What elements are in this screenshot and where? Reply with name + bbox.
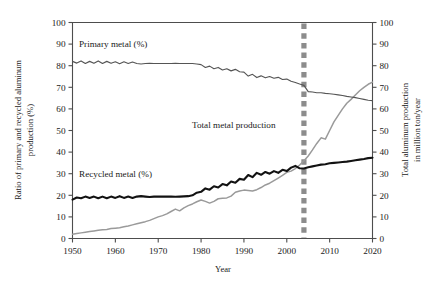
right-tick-label: 0 xyxy=(380,234,385,244)
right-tick-label: 70 xyxy=(380,83,390,93)
left-tick-label: 70 xyxy=(56,83,66,93)
left-tick-label: 20 xyxy=(56,191,66,201)
aluminum-production-chart: 0102030405060708090100 01020304050607080… xyxy=(0,0,438,283)
left-tick-label: 80 xyxy=(56,61,66,71)
right-tick-label: 10 xyxy=(380,212,390,222)
left-tick-label: 40 xyxy=(56,147,66,157)
left-tick-label: 30 xyxy=(56,169,66,179)
right-tick-label: 100 xyxy=(380,18,394,28)
right-tick-label: 90 xyxy=(380,39,390,49)
x-tick-label: 2020 xyxy=(363,246,382,256)
left-tick-label: 60 xyxy=(56,104,66,114)
chart-figure: 0102030405060708090100 01020304050607080… xyxy=(0,0,438,283)
left-tick-label: 100 xyxy=(52,18,66,28)
y2-axis-title-line2: in million ton/year xyxy=(412,98,422,162)
y2-axis-title-line1: Total aluminum production xyxy=(400,82,410,177)
x-tick-label: 2010 xyxy=(320,246,339,256)
left-tick-label: 10 xyxy=(56,212,66,222)
x-tick-label: 1950 xyxy=(63,246,82,256)
x-tick-label: 1990 xyxy=(235,246,254,256)
right-tick-label: 60 xyxy=(380,104,390,114)
left-tick-label: 0 xyxy=(61,234,66,244)
x-tick-label: 1980 xyxy=(192,246,211,256)
x-axis-title: Year xyxy=(215,264,231,274)
primary-metal-label: Primary metal (%) xyxy=(79,39,147,49)
total-metal-label: Total metal production xyxy=(192,120,276,130)
x-tick-label: 1970 xyxy=(149,246,168,256)
right-tick-label: 20 xyxy=(380,191,390,201)
left-tick-label: 90 xyxy=(56,39,66,49)
x-tick-label: 2000 xyxy=(278,246,297,256)
right-tick-label: 30 xyxy=(380,169,390,179)
right-tick-label: 80 xyxy=(380,61,390,71)
y-axis-title-line2: production (%) xyxy=(25,104,35,156)
recycled-metal-label: Recycled metal (%) xyxy=(79,169,152,179)
right-tick-label: 40 xyxy=(380,147,390,157)
y-axis-title-line1: Ratio of primary and recycled aluminum xyxy=(13,60,23,200)
right-tick-label: 50 xyxy=(380,126,390,136)
left-tick-label: 50 xyxy=(56,126,66,136)
x-tick-label: 1960 xyxy=(106,246,125,256)
